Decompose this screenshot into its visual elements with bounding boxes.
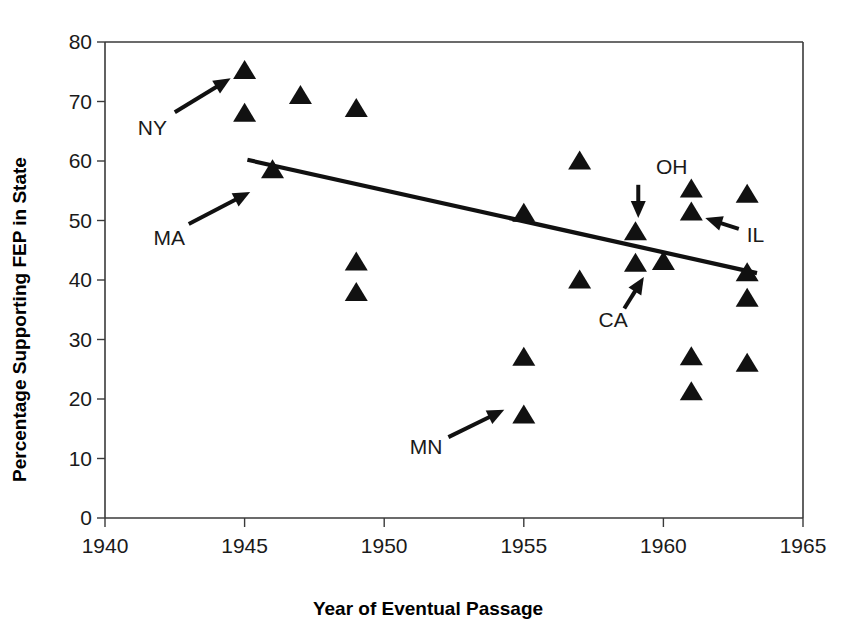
annotation-label-ca: CA	[599, 308, 628, 332]
data-point	[736, 353, 759, 372]
x-tick-label: 1945	[221, 534, 268, 558]
x-tick-label: 1955	[500, 534, 547, 558]
data-point	[512, 347, 535, 366]
data-point-ny	[233, 60, 256, 79]
data-point	[680, 178, 703, 197]
chart-plot-area	[0, 0, 856, 639]
annotation-label-oh: OH	[656, 155, 688, 179]
data-point	[345, 282, 368, 301]
data-point-il	[680, 202, 703, 221]
x-tick-label: 1950	[361, 534, 408, 558]
annotation-label-ny: NY	[138, 116, 167, 140]
annotation-label-il: IL	[747, 223, 765, 247]
chart-figure: 0102030405060708019401945195019551960196…	[0, 0, 856, 639]
data-point	[289, 85, 312, 104]
data-point	[512, 203, 535, 222]
data-point	[345, 252, 368, 271]
annotation-arrowhead-oh	[631, 201, 646, 218]
annotation-arrow-mn	[448, 415, 492, 437]
data-point	[233, 103, 256, 122]
x-tick-label: 1960	[640, 534, 687, 558]
annotation-label-mn: MN	[410, 435, 443, 459]
data-point-oh	[624, 221, 647, 240]
x-axis-title: Year of Eventual Passage	[0, 598, 856, 620]
data-point	[680, 346, 703, 365]
data-point	[568, 269, 591, 288]
y-axis-title: Percentage Supporting FEP in State	[0, 0, 40, 639]
x-tick-label: 1965	[780, 534, 827, 558]
data-point	[736, 184, 759, 203]
annotation-arrowhead-il	[705, 216, 723, 230]
x-tick-label: 1940	[82, 534, 129, 558]
data-point	[736, 288, 759, 307]
data-point-ca	[624, 253, 647, 272]
data-point	[680, 381, 703, 400]
data-point-mn	[512, 404, 535, 423]
annotation-arrow-ny	[175, 85, 220, 112]
annotation-label-ma: MA	[153, 226, 185, 250]
annotation-arrow-ma	[189, 198, 239, 224]
data-point	[345, 98, 368, 117]
data-point	[568, 150, 591, 169]
